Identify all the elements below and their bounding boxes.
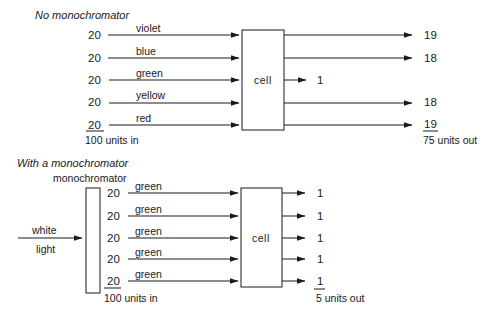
bottom-output-value-2: 1 [317, 210, 323, 222]
input-value-red: 20 [88, 119, 101, 131]
total-in-bottom: 100 units in [104, 292, 158, 304]
cell-label-top: cell [254, 74, 272, 86]
total-out-bottom: 5 units out [316, 292, 364, 304]
bottom-output-value-1: 1 [317, 187, 323, 199]
mono-input-value-3: 20 [107, 232, 120, 244]
color-label-blue: blue [136, 45, 156, 57]
mono-color-label-3: green [135, 225, 162, 237]
mono-input-value-2: 20 [107, 210, 120, 222]
bottom-output-value-4: 1 [317, 253, 323, 265]
mono-color-label-1: green [135, 180, 162, 192]
monochromator-label: monochromator [53, 172, 127, 184]
color-label-green: green [136, 67, 163, 79]
section-title-with-monochromator: With a monochromator [17, 157, 128, 169]
color-label-yellow: yellow [136, 89, 165, 101]
mono-color-label-5: green [135, 268, 162, 280]
total-out-top: 75 units out [423, 134, 477, 146]
total-in-top: 100 units in [85, 134, 139, 146]
bottom-output-value-3: 1 [317, 232, 323, 244]
color-label-red: red [136, 112, 151, 124]
mono-color-label-2: green [135, 203, 162, 215]
mono-input-value-5: 20 [107, 275, 120, 287]
output-value-1: 19 [424, 29, 437, 41]
white-light-label-line1: white [32, 224, 57, 236]
mono-input-value-4: 20 [107, 253, 120, 265]
white-light-label-line2: light [36, 243, 55, 255]
input-value-blue: 20 [88, 52, 101, 64]
color-label-violet: violet [136, 22, 161, 34]
output-value-3: 18 [424, 96, 437, 108]
input-value-yellow: 20 [88, 96, 101, 108]
mono-color-label-4: green [135, 246, 162, 258]
section-title-no-monochromator: No monochromator [35, 9, 129, 21]
input-value-violet: 20 [88, 29, 101, 41]
input-value-green: 20 [88, 74, 101, 86]
monochromator-box [86, 188, 100, 293]
cell-label-bottom: cell [252, 232, 270, 244]
mono-input-value-1: 20 [107, 187, 120, 199]
output-value-4: 19 [424, 118, 437, 130]
absorbed-value: 1 [317, 74, 323, 86]
output-value-2: 18 [424, 52, 437, 64]
bottom-output-value-5: 1 [317, 275, 323, 287]
